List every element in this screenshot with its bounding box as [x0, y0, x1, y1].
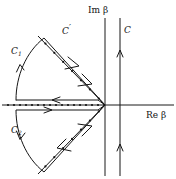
contour-cprime-label: C ′ [62, 23, 71, 36]
contour-c1-label-letter: C [11, 46, 18, 56]
contour-c1-arc[interactable] [16, 38, 44, 100]
contour-c2-label-letter: C [11, 125, 18, 135]
contour-c2-path[interactable] [16, 105, 105, 172]
axis-group [2, 18, 174, 176]
contour-c1-path[interactable] [16, 38, 105, 105]
contour-c-path[interactable] [117, 18, 123, 176]
re-beta-axis-label: Re β [146, 110, 166, 120]
im-beta-axis-label: Im β [88, 5, 108, 15]
contour-diagram-figure: Im β Re β C C ′ C 1 C 2 [0, 0, 176, 179]
contour-c2-label-subscript: 2 [17, 129, 22, 136]
diagram-canvas: Im β Re β C C ′ C 1 C 2 [0, 0, 176, 179]
contour-c1-descending-leg[interactable] [44, 38, 105, 105]
contour-cprime-label-prime: ′ [69, 23, 71, 33]
contour-c-label: C [124, 25, 131, 35]
contour-c2-label: C 2 [11, 125, 22, 136]
contour-cprime-label-letter: C [62, 26, 69, 36]
contour-c1-label-subscript: 1 [18, 50, 22, 57]
contour-c1-label: C 1 [11, 46, 22, 57]
contour-c2-ascending-leg[interactable] [44, 105, 105, 172]
contour-c2-arc[interactable] [16, 110, 44, 172]
